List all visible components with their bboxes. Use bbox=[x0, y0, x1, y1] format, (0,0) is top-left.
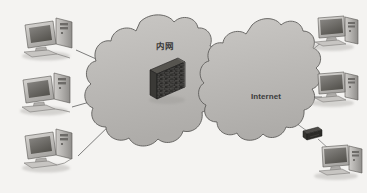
tower-case bbox=[56, 18, 72, 48]
diagram-canvas: 内网 Internet bbox=[0, 0, 367, 193]
tower-case bbox=[349, 146, 362, 173]
internet-cloud: Internet bbox=[199, 19, 321, 141]
monitor-screen bbox=[320, 19, 343, 36]
tower-power-led bbox=[61, 143, 63, 145]
tower-drive-bay2 bbox=[352, 155, 359, 157]
firewall-front-face bbox=[150, 70, 157, 99]
monitor-screen bbox=[320, 75, 343, 92]
tower-drive-bay bbox=[348, 78, 355, 80]
internal-cloud-label: 内网 bbox=[156, 41, 175, 51]
tower-drive-bay2 bbox=[60, 138, 68, 140]
tower-drive-bay bbox=[60, 23, 68, 25]
monitor-screen bbox=[324, 148, 347, 165]
mouse-cable bbox=[57, 159, 71, 165]
tower-drive-bay2 bbox=[58, 82, 66, 84]
tower-case bbox=[345, 73, 358, 100]
tower-case bbox=[56, 129, 72, 159]
tower-drive-bay bbox=[348, 22, 355, 24]
tower-power-led bbox=[59, 87, 61, 89]
network-diagram: 内网 Internet bbox=[0, 0, 367, 193]
tower-drive-bay2 bbox=[60, 27, 68, 29]
workstation-left-middle bbox=[20, 73, 70, 116]
tower-power-led bbox=[61, 32, 63, 34]
tower-power-led bbox=[349, 30, 351, 32]
tower-case bbox=[54, 73, 70, 103]
tower-power-led bbox=[349, 86, 351, 88]
tower-drive-bay2 bbox=[348, 26, 355, 28]
tower-drive-bay2 bbox=[348, 82, 355, 84]
host-right-top bbox=[310, 16, 358, 51]
modem bbox=[303, 127, 322, 140]
host-right-bottom bbox=[314, 145, 362, 180]
tower-power-led bbox=[353, 159, 355, 161]
monitor-screen bbox=[27, 80, 50, 98]
internet-cloud-label: Internet bbox=[251, 92, 281, 101]
tower-drive-bay bbox=[58, 78, 66, 80]
monitor-screen bbox=[29, 25, 52, 43]
workstation-left-bottom bbox=[22, 129, 72, 173]
tower-drive-bay bbox=[60, 134, 68, 136]
workstation-left-top bbox=[22, 15, 82, 61]
tower-drive-bay bbox=[352, 151, 359, 153]
tower-case bbox=[345, 17, 358, 44]
monitor-screen bbox=[29, 136, 52, 154]
internet-cloud-shape bbox=[199, 19, 321, 141]
